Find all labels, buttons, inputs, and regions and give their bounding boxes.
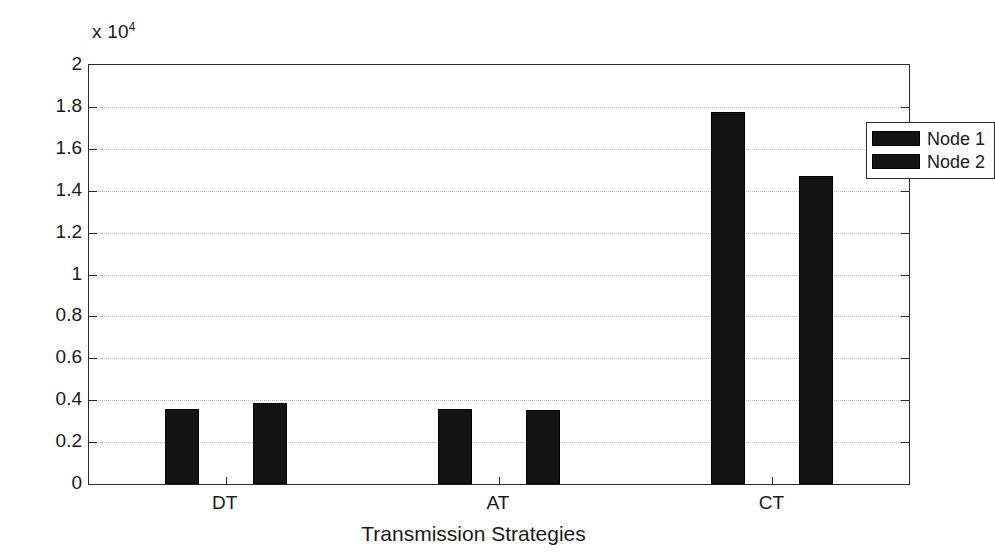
legend: Node 1Node 2 bbox=[866, 122, 995, 179]
y-tick-mark bbox=[89, 400, 97, 401]
y-tick-mark bbox=[89, 149, 97, 150]
y-tick-mark bbox=[901, 191, 909, 192]
bar bbox=[438, 409, 472, 484]
y-tick-label: 0.6 bbox=[12, 346, 82, 368]
x-tick-label: DT bbox=[165, 492, 285, 514]
legend-label: Node 1 bbox=[927, 130, 985, 148]
y-tick-label: 0 bbox=[12, 472, 82, 494]
gridline bbox=[89, 316, 909, 317]
gridline bbox=[89, 149, 909, 150]
plot-area: Node 1Node 2 bbox=[88, 64, 910, 485]
y-tick-mark bbox=[89, 275, 97, 276]
y-tick-mark bbox=[89, 358, 97, 359]
bar bbox=[711, 112, 745, 484]
y-tick-label: 1.4 bbox=[12, 179, 82, 201]
y-tick-mark bbox=[901, 358, 909, 359]
y-tick-mark bbox=[89, 107, 97, 108]
y-tick-label: 2 bbox=[12, 53, 82, 75]
legend-label: Node 2 bbox=[927, 153, 985, 171]
y-tick-mark bbox=[89, 442, 97, 443]
bar bbox=[165, 409, 199, 484]
bar bbox=[253, 403, 287, 484]
legend-swatch bbox=[872, 154, 920, 169]
y-multiplier-base: x 10 bbox=[92, 21, 129, 42]
x-tick-mark bbox=[772, 477, 773, 484]
gridline bbox=[89, 442, 909, 443]
y-tick-mark bbox=[901, 233, 909, 234]
y-tick-mark bbox=[89, 316, 97, 317]
y-tick-mark bbox=[901, 442, 909, 443]
gridline bbox=[89, 233, 909, 234]
y-tick-label: 0.8 bbox=[12, 304, 82, 326]
x-tick-label: CT bbox=[711, 492, 831, 514]
gridline bbox=[89, 107, 909, 108]
y-tick-mark bbox=[901, 400, 909, 401]
gridline bbox=[89, 275, 909, 276]
gridline bbox=[89, 400, 909, 401]
y-axis-multiplier: x 104 bbox=[92, 20, 136, 43]
y-tick-mark bbox=[89, 233, 97, 234]
y-tick-label: 1 bbox=[12, 263, 82, 285]
y-tick-label: 1.6 bbox=[12, 137, 82, 159]
y-tick-label: 0.2 bbox=[12, 430, 82, 452]
legend-item: Node 1 bbox=[872, 127, 989, 150]
y-tick-mark bbox=[901, 107, 909, 108]
x-tick-mark bbox=[226, 477, 227, 484]
legend-item: Node 2 bbox=[872, 150, 989, 173]
y-tick-label: 1.2 bbox=[12, 221, 82, 243]
y-tick-mark bbox=[901, 316, 909, 317]
x-tick-label: AT bbox=[438, 492, 558, 514]
y-tick-mark bbox=[901, 275, 909, 276]
y-tick-mark bbox=[89, 191, 97, 192]
gridline bbox=[89, 358, 909, 359]
y-axis-tick-labels: 00.20.40.60.811.21.41.61.82 bbox=[10, 0, 82, 560]
legend-swatch bbox=[872, 131, 920, 146]
y-tick-label: 0.4 bbox=[12, 388, 82, 410]
bar bbox=[526, 410, 560, 484]
bar bbox=[799, 176, 833, 484]
y-multiplier-exponent: 4 bbox=[129, 20, 136, 34]
gridline bbox=[89, 191, 909, 192]
y-tick-label: 1.8 bbox=[12, 95, 82, 117]
x-tick-mark bbox=[499, 477, 500, 484]
x-axis-title: Transmission Strategies bbox=[0, 522, 947, 546]
